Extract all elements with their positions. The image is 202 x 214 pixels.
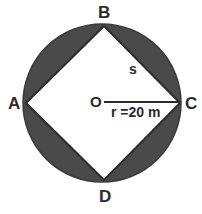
vertex-label-c: C <box>185 95 197 112</box>
vertex-label-a: A <box>8 95 20 112</box>
vertex-label-b: B <box>98 4 110 21</box>
vertex-label-d: D <box>99 188 111 205</box>
center-label-o: O <box>90 94 102 109</box>
side-length-label: s <box>129 62 137 76</box>
radius-label: r =20 m <box>111 105 160 119</box>
geometry-figure: B A C D O s r =20 m <box>0 0 202 214</box>
